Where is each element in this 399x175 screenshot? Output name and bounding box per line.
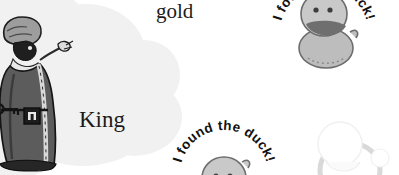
duck-ghost-tail (371, 149, 389, 167)
duck-eye-left (313, 7, 318, 12)
king-hand (58, 41, 70, 51)
lock-icon (24, 108, 40, 124)
duck-ghost-beak (326, 162, 360, 171)
king-face (13, 41, 36, 61)
page-canvas: gold King (0, 0, 399, 175)
word-label-king: King (79, 108, 125, 131)
duck-head (202, 157, 246, 175)
duck-tail (350, 30, 358, 38)
word-label-gold: gold (156, 1, 193, 22)
duck-stamp-bottom: I found the duck! (172, 116, 276, 175)
king-base (0, 160, 56, 171)
duck-stamp-top: I found the duck! (268, 0, 380, 84)
cloud-blob-part (110, 40, 180, 110)
crown-shape (4, 17, 41, 45)
duck-stamp-ghost (296, 96, 399, 175)
duck-eye-right (327, 7, 332, 12)
king-illustration (0, 14, 74, 172)
duck-ghost-head (318, 122, 362, 166)
king-eye (28, 46, 32, 50)
